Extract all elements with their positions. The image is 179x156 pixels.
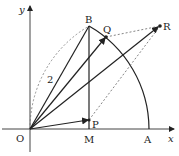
point-P (87, 118, 90, 121)
x-axis-label: x (168, 133, 174, 144)
length-label: 2 (47, 74, 53, 85)
point-R (158, 24, 162, 28)
label-B: B (85, 14, 92, 25)
vector-OQ (30, 38, 105, 129)
label-M: M (84, 134, 94, 145)
label-A: A (143, 134, 152, 145)
label-Q: Q (103, 24, 111, 35)
figure-canvas: y x O M A B Q R P 2 (0, 0, 179, 156)
segment-OB (30, 26, 89, 129)
label-P: P (92, 119, 99, 130)
geometry-figure: y x O M A B Q R P 2 (0, 0, 179, 156)
y-axis-label: y (18, 4, 25, 15)
label-O: O (16, 133, 24, 144)
point-Q (104, 35, 108, 39)
label-R: R (163, 21, 171, 32)
